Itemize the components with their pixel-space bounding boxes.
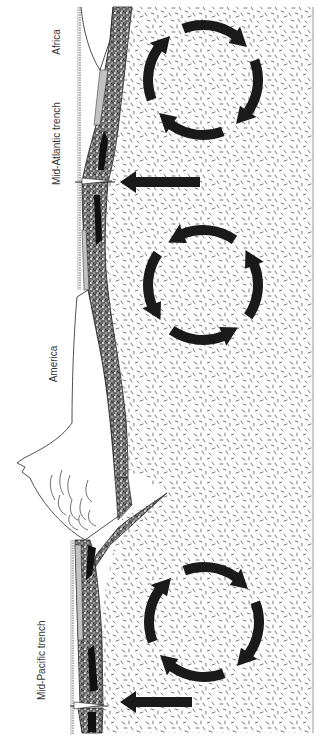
crust-flow-arrow-5: [88, 712, 96, 732]
label-mid-atlantic: Mid-Atlantic trench: [51, 102, 62, 185]
mantle-convection-diagram: Africa Mid-Atlantic trench America Mid-P…: [0, 0, 329, 751]
america-crust-root: [115, 478, 132, 520]
label-africa: Africa: [51, 29, 62, 55]
label-america: America: [48, 345, 59, 382]
label-mid-pacific: Mid-Pacific trench: [36, 621, 47, 700]
